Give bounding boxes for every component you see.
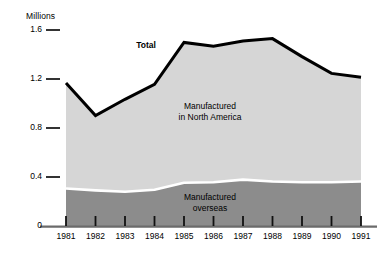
annotation-north-america-line2: in North America <box>150 112 270 123</box>
x-tick-label-1991: 1991 <box>343 231 379 241</box>
annotation-north-america-line1: Manufactured <box>150 101 270 112</box>
y-tick-label-0_8: 0.8 <box>6 122 42 132</box>
chart-canvas <box>0 0 383 256</box>
annotation-overseas-line1: Manufactured <box>150 192 270 203</box>
annotation-north-america: Manufactured in North America <box>150 101 270 122</box>
annotation-total: Total <box>116 40 176 51</box>
y-axis-ticks <box>46 30 60 177</box>
y-tick-label-1_6: 1.6 <box>6 24 42 34</box>
y-tick-label-0: 0 <box>6 220 42 230</box>
y-axis-unit-label: Millions <box>26 11 55 21</box>
y-tick-label-0_4: 0.4 <box>6 171 42 181</box>
area-chart: Millions 1.6 1.2 0.8 0.4 0 1981 1982 198… <box>0 0 383 256</box>
y-tick-label-1_2: 1.2 <box>6 73 42 83</box>
annotation-overseas-line2: overseas <box>150 203 270 214</box>
annotation-overseas: Manufactured overseas <box>150 192 270 213</box>
